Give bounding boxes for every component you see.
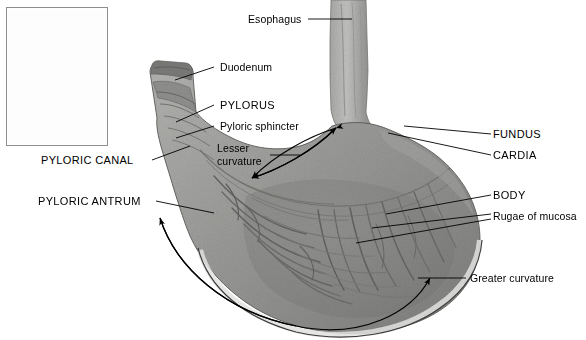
figure-canvas: Esophagus Duodenum PYLORUS Pyloric sphin… <box>0 0 586 340</box>
stomach-specimen <box>150 0 482 337</box>
label-lesser-curvature: Lesser curvature <box>217 142 273 168</box>
inset-frame <box>6 7 108 146</box>
label-duodenum: Duodenum <box>220 61 272 73</box>
label-pyloric-canal: PYLORIC CANAL <box>41 154 134 166</box>
label-cardia: CARDIA <box>493 149 537 161</box>
label-body: BODY <box>493 189 526 201</box>
label-greater-curvature: Greater curvature <box>470 272 554 284</box>
label-esophagus: Esophagus <box>248 13 301 25</box>
label-rugae-of-mucosa: Rugae of mucosa <box>493 210 577 222</box>
label-lesser-curvature-line1: Lesser <box>217 142 249 154</box>
leader-fundus <box>404 126 491 134</box>
label-pyloric-sphincter: Pyloric sphincter <box>220 120 299 132</box>
label-fundus: FUNDUS <box>493 128 541 140</box>
label-pyloric-antrum: PYLORIC ANTRUM <box>38 195 141 207</box>
label-lesser-curvature-line2: curvature <box>217 155 262 167</box>
label-pylorus: PYLORUS <box>220 99 275 111</box>
